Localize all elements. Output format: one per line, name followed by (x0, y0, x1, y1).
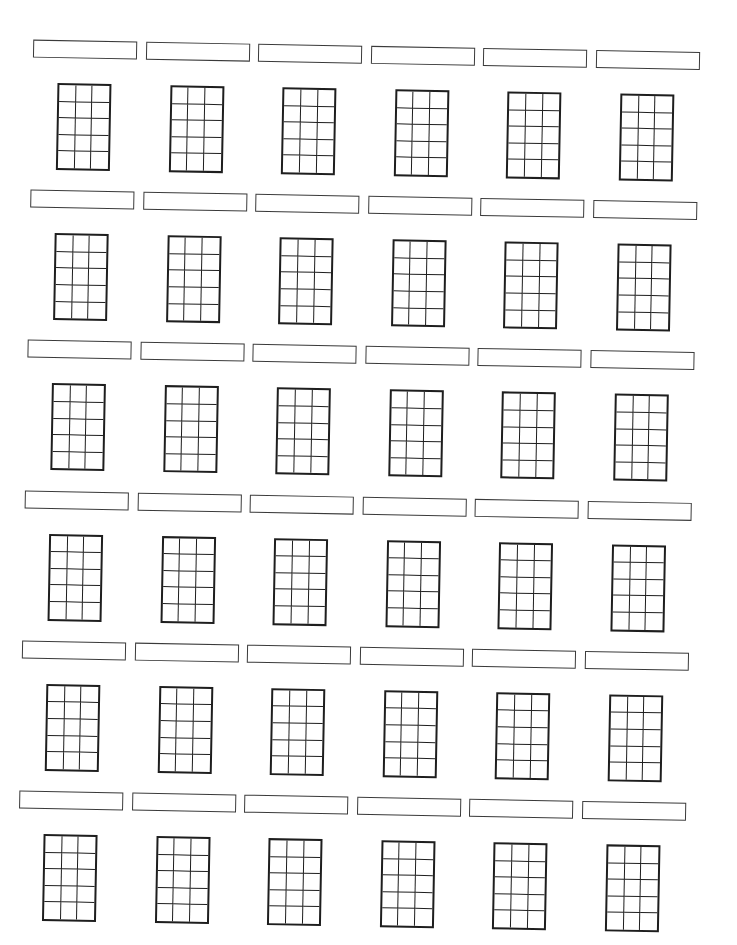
chord-name-box[interactable] (590, 350, 694, 370)
fretboard-grid[interactable] (50, 383, 106, 471)
fretboard-grid[interactable] (616, 244, 672, 332)
chord-name-box[interactable] (134, 642, 238, 662)
fret-cell (56, 268, 73, 285)
chord-name-box[interactable] (30, 190, 134, 210)
fretboard-grid[interactable] (506, 91, 562, 179)
fret-cell (197, 538, 214, 555)
fret-cell (421, 609, 438, 626)
chord-name-box[interactable] (137, 492, 241, 512)
fretboard-grid[interactable] (168, 85, 224, 173)
fretboard-grid[interactable] (45, 684, 101, 772)
fretboard-grid[interactable] (391, 239, 447, 327)
chord-name-box[interactable] (478, 348, 582, 368)
chord-name-box[interactable] (365, 346, 469, 366)
fret-cell (272, 740, 289, 757)
chord-diagram (368, 46, 477, 198)
chord-name-box[interactable] (360, 647, 464, 667)
fret-cell (168, 304, 185, 321)
chord-name-box[interactable] (255, 194, 359, 214)
fretboard-grid[interactable] (619, 93, 675, 181)
fretboard-grid[interactable] (267, 838, 323, 926)
fretboard-grid[interactable] (278, 237, 334, 325)
chord-name-box[interactable] (27, 340, 131, 360)
chord-name-box[interactable] (362, 496, 466, 516)
chord-name-box[interactable] (19, 790, 123, 810)
chord-name-box[interactable] (146, 42, 250, 62)
chord-name-box[interactable] (596, 50, 700, 70)
fretboard-grid[interactable] (48, 534, 104, 622)
fret-cell (45, 853, 62, 870)
chord-name-box[interactable] (593, 200, 697, 220)
fret-cell (81, 686, 98, 703)
fret-cell (165, 437, 182, 454)
fretboard-grid[interactable] (610, 544, 666, 632)
fretboard-grid[interactable] (275, 388, 331, 476)
fret-cell (396, 141, 413, 158)
fretboard-grid[interactable] (605, 844, 661, 932)
chord-name-box[interactable] (247, 644, 351, 664)
fretboard-grid[interactable] (380, 840, 436, 928)
chord-name-box[interactable] (368, 196, 472, 216)
fret-cell (84, 569, 101, 586)
chord-name-box[interactable] (469, 799, 573, 819)
chord-name-box[interactable] (582, 801, 686, 821)
chord-name-box[interactable] (253, 344, 357, 364)
chord-name-box[interactable] (143, 192, 247, 212)
fretboard-grid[interactable] (495, 692, 551, 780)
fretboard-grid[interactable] (273, 538, 329, 626)
chord-name-box[interactable] (244, 795, 348, 815)
fretboard-grid[interactable] (166, 235, 222, 323)
chord-name-box[interactable] (475, 498, 579, 518)
chord-diagram (580, 801, 689, 945)
chord-diagram (253, 194, 362, 346)
chord-name-box[interactable] (371, 46, 475, 66)
fretboard-grid[interactable] (42, 834, 98, 922)
fret-cell (503, 460, 520, 477)
fretboard-grid[interactable] (155, 836, 211, 924)
fret-cell (303, 857, 320, 874)
chord-name-box[interactable] (33, 40, 137, 60)
chord-name-box[interactable] (480, 198, 584, 218)
fretboard-grid[interactable] (388, 390, 444, 478)
chord-name-box[interactable] (472, 649, 576, 669)
chord-name-box[interactable] (25, 490, 129, 510)
fretboard-grid[interactable] (394, 89, 450, 177)
fret-cell (157, 871, 174, 888)
chord-name-box[interactable] (140, 342, 244, 362)
fretboard-grid[interactable] (503, 242, 559, 330)
chord-name-box[interactable] (250, 494, 354, 514)
chord-name-box[interactable] (357, 797, 461, 817)
fretboard-grid[interactable] (160, 536, 216, 624)
fretboard-grid[interactable] (501, 392, 557, 480)
fretboard-grid[interactable] (382, 690, 438, 778)
fretboard-grid[interactable] (281, 87, 337, 175)
chord-name-box[interactable] (132, 793, 236, 813)
fretboard-grid[interactable] (608, 694, 664, 782)
fret-cell (59, 85, 76, 102)
fret-cell (388, 575, 405, 592)
fretboard-grid[interactable] (56, 83, 112, 171)
fret-cell (400, 843, 417, 860)
fretboard-grid[interactable] (492, 842, 548, 930)
fretboard-grid[interactable] (157, 686, 213, 774)
fret-cell (393, 291, 410, 308)
chord-name-box[interactable] (22, 640, 126, 660)
fret-cell (426, 292, 443, 309)
chord-name-box[interactable] (258, 44, 362, 64)
fret-cell (290, 690, 307, 707)
fretboard-grid[interactable] (613, 394, 669, 482)
fretboard-grid[interactable] (385, 540, 441, 628)
fretboard-grid[interactable] (53, 233, 109, 321)
fret-cell (533, 611, 550, 628)
chord-name-box[interactable] (585, 651, 689, 671)
fret-cell (540, 244, 557, 261)
fretboard-grid[interactable] (498, 542, 554, 630)
fret-cell (187, 137, 204, 154)
chord-name-box[interactable] (483, 48, 587, 68)
fret-cell (317, 123, 334, 140)
fretboard-grid[interactable] (270, 688, 326, 776)
fretboard-grid[interactable] (163, 385, 219, 473)
fret-cell (629, 596, 646, 613)
fret-cell (270, 857, 287, 874)
chord-name-box[interactable] (588, 501, 692, 521)
